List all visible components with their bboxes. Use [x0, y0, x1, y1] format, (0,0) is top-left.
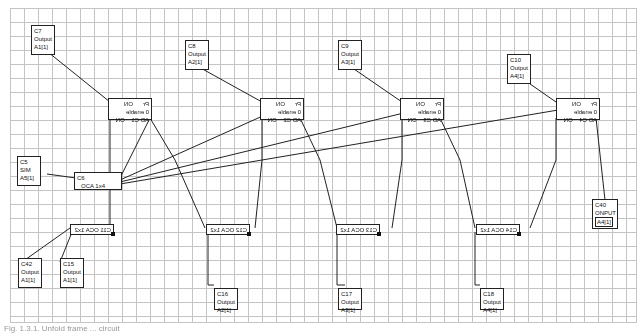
port-marker: [377, 232, 381, 236]
block-type: Output: [510, 64, 528, 72]
block-label: C12 OCA 1x2: [209, 226, 247, 234]
oca-block-c6[interactable]: C6 OCA 1x4: [74, 172, 122, 190]
output-block-c42[interactable]: C42 Output A1[1]: [18, 258, 42, 288]
ctrl-mid: 0 enable: [559, 108, 597, 116]
block-type: Output: [217, 298, 235, 306]
block-id: C8: [188, 42, 206, 50]
ctrl-top: Pr ON: [559, 100, 597, 108]
wires: [0, 0, 643, 334]
split-block-c13[interactable]: C13 OCA 1x2: [336, 224, 380, 235]
block-type: Output: [483, 298, 501, 306]
output-block-c7[interactable]: C7 Output A1[1]: [31, 25, 55, 55]
block-id: C9: [341, 42, 359, 50]
block-addr: A4[1]: [483, 306, 501, 314]
block-id: C18: [483, 290, 501, 298]
split-block-c12[interactable]: C12 OCA 1x2: [206, 224, 250, 235]
block-addr: A2[1]: [188, 58, 206, 66]
block-addr: A4[1]: [595, 217, 613, 227]
block-type: Output: [341, 50, 359, 58]
block-addr: A1[1]: [63, 276, 81, 284]
block-addr: A2[1]: [217, 306, 235, 314]
output-block-c9[interactable]: C9 Output A3[1]: [338, 40, 362, 70]
block-label: C13 OCA 1x2: [339, 226, 377, 234]
ctrl-top: Pr ON: [111, 100, 149, 108]
block-addr: A4[1]: [510, 72, 528, 80]
block-id: C17: [341, 290, 359, 298]
output-block-c15[interactable]: C15 Output A1[1]: [60, 258, 84, 288]
ctrl-bottom: AD C4 ON: [559, 116, 597, 124]
block-addr: A5[1]: [20, 174, 38, 182]
block-id: C6: [77, 174, 119, 182]
port-marker: [517, 232, 521, 236]
block-addr: A3[1]: [341, 58, 359, 66]
diagram-canvas[interactable]: C7 Output A1[1] C8 Output A2[1] C9 Outpu…: [0, 0, 643, 334]
figure-caption: Fig. 1.3.1. Unfold frame ... circuit: [4, 324, 120, 333]
block-type: ONPUT: [595, 209, 615, 217]
sim-block-c5[interactable]: C5 SIM A5[1]: [17, 156, 41, 186]
output-block-c16[interactable]: C16 Output A2[1]: [214, 288, 238, 310]
ctrl-bottom: AD C1 ON: [111, 116, 149, 124]
output-block-c10[interactable]: C10 Output A4[1]: [507, 54, 531, 84]
port-marker: [247, 232, 251, 236]
ctrl-mid: 0 enable: [403, 108, 441, 116]
block-id: C5: [20, 158, 38, 166]
block-type: SIM: [20, 166, 38, 174]
output-block-c18[interactable]: C18 Output A4[1]: [480, 288, 504, 310]
ctrl-block-c4[interactable]: Pr ON 0 enable AD C4 ON: [556, 98, 600, 120]
block-id: C15: [63, 260, 81, 268]
block-addr: A1[1]: [34, 43, 52, 51]
split-block-c14[interactable]: C14 OCA 1x2: [476, 224, 520, 235]
block-addr: A3[1]: [341, 306, 359, 314]
ctrl-block-c2[interactable]: Pr ON 0 enable AD C2 ON: [260, 98, 304, 120]
block-id: C16: [217, 290, 235, 298]
ctrl-mid: 0 enable: [111, 108, 149, 116]
ctrl-top: Pr ON: [263, 100, 301, 108]
block-id: C10: [510, 56, 528, 64]
input-block-c40[interactable]: C40 ONPUT A4[1]: [592, 199, 618, 229]
block-id: C40: [595, 201, 615, 209]
block-type: Output: [34, 35, 52, 43]
block-label: C14 OCA 1x2: [479, 226, 517, 234]
split-block-c11[interactable]: C11 OCA 1x2: [70, 224, 114, 235]
ctrl-bottom: AD C3 ON: [403, 116, 441, 124]
block-id: C7: [34, 27, 52, 35]
ctrl-bottom: AD C2 ON: [263, 116, 301, 124]
block-addr: A1[1]: [21, 276, 39, 284]
ctrl-mid: 0 enable: [263, 108, 301, 116]
ctrl-top: Pr ON: [403, 100, 441, 108]
block-label: C11 OCA 1x2: [73, 226, 111, 234]
block-id: C42: [21, 260, 39, 268]
output-block-c17[interactable]: C17 Output A3[1]: [338, 288, 362, 310]
block-type: Output: [188, 50, 206, 58]
port-marker: [111, 232, 115, 236]
block-type: Output: [21, 268, 39, 276]
output-block-c8[interactable]: C8 Output A2[1]: [185, 40, 209, 70]
block-label: OCA 1x4: [77, 182, 119, 190]
block-type: Output: [63, 268, 81, 276]
ctrl-block-c1[interactable]: Pr ON 0 enable AD C1 ON: [108, 98, 152, 120]
ctrl-block-c3[interactable]: Pr ON 0 enable AD C3 ON: [400, 98, 444, 120]
block-type: Output: [341, 298, 359, 306]
